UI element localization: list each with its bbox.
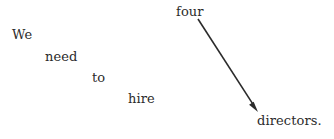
sentence-diagram-canvas: We need to hire four directors. (0, 0, 334, 139)
arrow-shaft (198, 19, 253, 105)
word-four: four (176, 5, 204, 18)
word-to: to (92, 71, 105, 84)
word-directors: directors. (257, 114, 322, 127)
arrow-head (249, 102, 258, 112)
word-hire: hire (128, 92, 155, 105)
word-we: We (12, 28, 32, 41)
word-need: need (45, 50, 77, 63)
